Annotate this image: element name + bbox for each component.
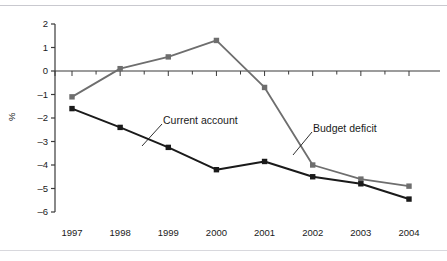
annotation-budget-deficit: Budget deficit (313, 123, 377, 134)
data-point-marker (117, 66, 122, 71)
data-point-marker (310, 162, 315, 167)
y-tick-label: –2 (22, 113, 48, 123)
y-tick-label: –5 (22, 184, 48, 194)
data-point-marker (310, 174, 315, 179)
y-tick-label: 1 (22, 43, 48, 53)
axes (51, 24, 440, 212)
x-tick-label: 1999 (148, 228, 188, 238)
data-point-marker (214, 167, 219, 172)
data-point-marker (69, 106, 74, 111)
series-lines (69, 38, 411, 202)
x-tick-label: 2004 (389, 228, 429, 238)
data-point-marker (406, 183, 411, 188)
x-tick-label: 2003 (341, 228, 381, 238)
series-line-budget-deficit (72, 40, 409, 186)
chart-figure: % 210–1–2–3–4–5–6 1997199819992000200120… (0, 0, 447, 261)
x-tick-label: 1997 (52, 228, 92, 238)
data-point-marker (69, 94, 74, 99)
y-tick-label: 2 (22, 19, 48, 29)
data-point-marker (166, 145, 171, 150)
annotation-leaders (142, 124, 312, 155)
plot-area (0, 0, 447, 261)
y-tick-label: –3 (22, 137, 48, 147)
x-tick-label: 2002 (293, 228, 333, 238)
data-point-marker (117, 125, 122, 130)
y-tick-label: –6 (22, 207, 48, 217)
data-point-marker (358, 181, 363, 186)
y-tick-label: –4 (22, 160, 48, 170)
data-point-marker (262, 159, 267, 164)
x-tick-label: 2001 (245, 228, 285, 238)
annotation-current-account: Current account (163, 115, 238, 126)
y-tick-label: –1 (22, 90, 48, 100)
data-point-marker (214, 38, 219, 43)
x-tick-label: 2000 (196, 228, 236, 238)
data-point-marker (262, 85, 267, 90)
x-tick-label: 1998 (100, 228, 140, 238)
data-point-marker (358, 176, 363, 181)
data-point-marker (406, 196, 411, 201)
y-tick-label: 0 (22, 66, 48, 76)
data-point-marker (166, 54, 171, 59)
